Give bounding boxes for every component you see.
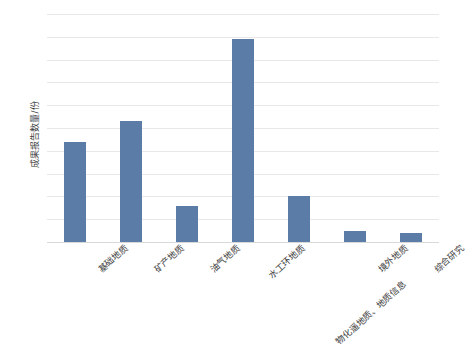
bar[interactable] [120,121,142,242]
clipped-chart-title [6,0,206,4]
x-axis-label: 综合研究 [432,243,466,275]
x-axis-label: 水工环地质 [267,243,308,281]
x-axis-label: 物化遥地质、地质信息 [334,279,408,347]
bar-slot [383,14,439,242]
bar[interactable] [288,196,310,242]
bars-layer [47,14,439,242]
x-axis-labels: 基础地质矿产地质油气地质水工环地质物化遥地质、地质信息境外地质综合研究 [47,243,439,331]
x-axis-label: 矿产地质 [152,243,186,275]
bar[interactable] [344,231,366,242]
bar[interactable] [176,206,198,242]
bar-slot [159,14,215,242]
bar-slot [47,14,103,242]
x-axis-label: 油气地质 [208,243,242,275]
bar[interactable] [64,142,86,242]
bar-slot [271,14,327,242]
x-axis-label: 基础地质 [96,243,130,275]
x-axis-label: 境外地质 [376,243,410,275]
bar-slot [215,14,271,242]
y-axis-title: 成果报告数量/份 [28,75,41,195]
bar-slot [327,14,383,242]
bar[interactable] [232,39,254,242]
bar[interactable] [400,233,422,242]
bar-slot [103,14,159,242]
plot-area: 0102030405060708090100 [47,14,439,242]
